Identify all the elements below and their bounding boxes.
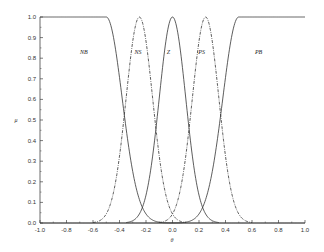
y-tick-label: 0.8 [28, 55, 37, 61]
y-tick-label: 0.7 [28, 76, 37, 82]
y-tick-label: 0.6 [28, 96, 37, 102]
x-tick-label: 0.4 [221, 227, 230, 233]
x-axis-label: θ [171, 237, 174, 243]
series-label-ns: NS [134, 49, 142, 55]
y-tick-label: 0.2 [28, 179, 37, 185]
y-tick-label: 0.5 [28, 117, 37, 123]
x-tick-label: -0.6 [88, 227, 99, 233]
y-tick-label: 0.1 [28, 199, 37, 205]
x-tick-label: -1.0 [35, 227, 46, 233]
x-tick-label: 0.6 [248, 227, 257, 233]
series-label-z: Z [167, 49, 171, 55]
curve-ns [93, 17, 186, 223]
curve-nb [40, 17, 305, 223]
y-tick-label: 0.9 [28, 35, 37, 41]
y-ticks: 0.00.10.20.30.40.50.60.70.80.91.0 [28, 14, 43, 226]
membership-function-chart: -1.0-0.8-0.6-0.4-0.20.00.20.40.60.81.0 0… [0, 0, 324, 252]
curve-z [126, 17, 219, 223]
series-label-nb: NB [79, 49, 88, 55]
x-ticks: -1.0-0.8-0.6-0.4-0.20.00.20.40.60.81.0 [35, 220, 310, 233]
y-axis-label: μ [14, 117, 17, 123]
y-tick-label: 0.3 [28, 158, 37, 164]
x-tick-label: 0.2 [195, 227, 204, 233]
curve-pb [40, 17, 305, 223]
y-tick-label: 0.0 [28, 220, 37, 226]
x-tick-label: 0.8 [274, 227, 283, 233]
curves [40, 17, 305, 223]
series-labels: NBNSZPSPB [79, 49, 263, 55]
curve-ps [159, 17, 252, 223]
y-tick-label: 0.4 [28, 138, 37, 144]
x-tick-label: -0.4 [114, 227, 125, 233]
axes [40, 17, 305, 223]
x-tick-label: -0.8 [61, 227, 72, 233]
y-tick-label: 1.0 [28, 14, 37, 20]
x-tick-label: 0.0 [168, 227, 177, 233]
series-label-ps: PS [197, 49, 205, 55]
series-label-pb: PB [254, 49, 263, 55]
x-tick-label: -0.2 [141, 227, 152, 233]
x-tick-label: 1.0 [301, 227, 310, 233]
